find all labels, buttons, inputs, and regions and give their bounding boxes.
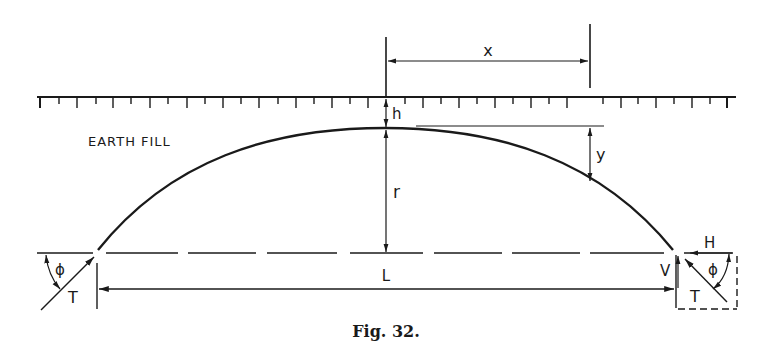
ground-ticks (40, 97, 727, 108)
y-label: y (596, 145, 605, 164)
right-force-triangle (676, 253, 737, 309)
r-label: r (393, 182, 400, 202)
right-t-label: T (689, 287, 700, 306)
v-force-label: V (660, 262, 671, 280)
left-phi-label: ϕ (55, 261, 65, 279)
x-dimension (386, 24, 590, 97)
h-force-label: H (704, 234, 715, 252)
arch-diagram: EARTH FILL x h r y L ϕ T (0, 0, 767, 347)
h-label: h (392, 105, 402, 123)
left-t-label: T (67, 288, 78, 307)
earth-fill-label: EARTH FILL (88, 134, 171, 149)
figure-caption: Fig. 32. (352, 322, 420, 341)
right-phi-label: ϕ (708, 261, 718, 279)
l-label: L (382, 267, 391, 285)
x-label: x (483, 41, 492, 60)
